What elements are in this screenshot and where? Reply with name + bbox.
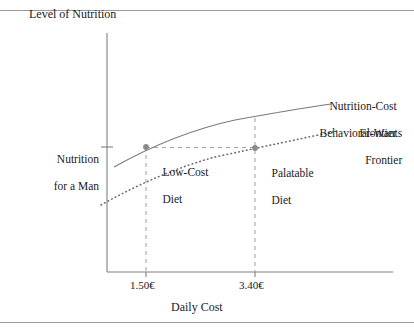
x-axis-label: Daily Cost — [171, 301, 223, 315]
series-label-behavioral-wants-frontier: Behavioral-Wants Frontier — [308, 113, 402, 194]
chart-figure: Level of Nutrition Nutrition for a Man D… — [0, 0, 414, 336]
annotation-palatable-diet-line2: Diet — [272, 194, 292, 206]
y-axis-label: Nutrition for a Man — [23, 139, 99, 207]
y-axis-label-line2: for a Man — [54, 180, 99, 192]
chart-title: Level of Nutrition — [29, 8, 116, 22]
series-label-behavioral-wants-frontier-line2: Frontier — [308, 154, 402, 168]
x-tick-label-1: 3.40€ — [239, 279, 264, 293]
y-axis-label-line1: Nutrition — [57, 153, 99, 165]
annotation-low-cost-diet-line1: Low-Cost — [163, 166, 209, 178]
data-point-low-cost-diet[interactable] — [143, 144, 149, 150]
series-label-behavioral-wants-frontier-line1: Behavioral-Wants — [320, 127, 403, 139]
series-label-nutrition-cost-frontier-line1: Nutrition-Cost — [330, 100, 397, 112]
annotation-low-cost-diet-line2: Diet — [163, 193, 183, 205]
data-point-palatable-diet[interactable] — [252, 145, 258, 151]
annotation-low-cost-diet: Low-Cost Diet — [151, 152, 209, 220]
x-tick-label-0: 1.50€ — [130, 279, 155, 293]
annotation-palatable-diet: Palatable Diet — [260, 153, 314, 221]
